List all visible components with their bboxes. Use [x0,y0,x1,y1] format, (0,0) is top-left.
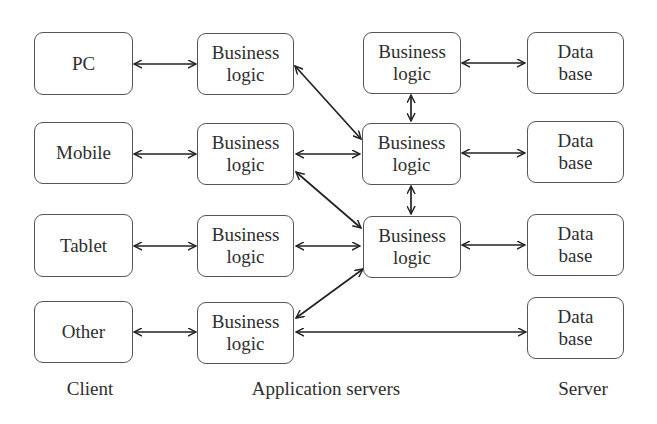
arrow-bl2-sbl3 [296,172,361,228]
client-tablet-node: Tablet [34,214,133,277]
arrow-bl4-sbl3 [296,269,363,318]
client-pc-node: PC [34,32,133,95]
column-label-client: Client [67,378,113,400]
client-business-logic-3: Business logic [197,215,294,277]
architecture-diagram: PC Mobile Tablet Other Business logic Bu… [0,0,657,424]
server-business-logic-2: Business logic [362,123,461,185]
database-1: Data base [527,32,624,94]
column-label-server: Server [558,378,608,400]
client-business-logic-4: Business logic [197,302,294,364]
server-business-logic-1: Business logic [363,32,461,94]
client-other-node: Other [34,301,133,363]
database-2: Data base [527,121,624,183]
arrow-bl1-sbl2 [295,66,361,139]
client-business-logic-2: Business logic [197,123,294,185]
server-business-logic-3: Business logic [363,216,461,278]
client-mobile-node: Mobile [34,122,133,184]
client-business-logic-1: Business logic [197,33,294,95]
database-3: Data base [527,214,624,276]
database-4: Data base [527,297,624,359]
column-label-application-servers: Application servers [252,378,400,400]
